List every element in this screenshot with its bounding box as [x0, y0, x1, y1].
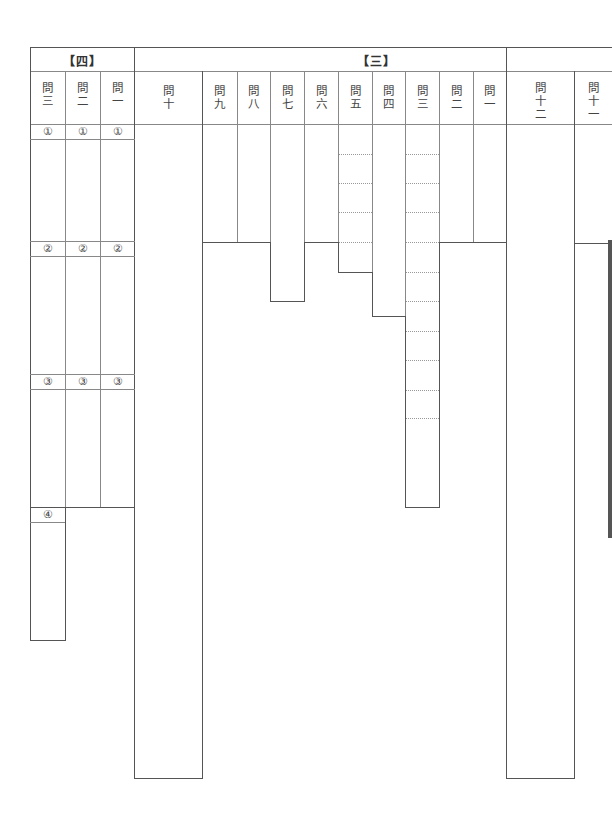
sec3-q2q1-bottom — [439, 242, 507, 243]
sec2-q11-label: 問 十 一 — [574, 82, 612, 121]
sec4-q3-sub3: ③ — [30, 375, 65, 388]
sec3-q4-label: 問四 — [372, 85, 405, 111]
sec4-q1-sub3: ③ — [100, 375, 135, 388]
sec4-q2-label: 問 二 — [65, 82, 100, 108]
sec2-q12-right — [574, 71, 575, 779]
sec3-q10-right — [202, 71, 203, 779]
sec3-q5-guide — [339, 154, 372, 155]
sec3-q2-label: 問二 — [439, 85, 473, 111]
sec4-sub2-bottom — [30, 256, 135, 257]
sec2-q12-bottom — [506, 778, 575, 779]
sec4-q3-bottom — [30, 640, 66, 641]
section-3-header: 【三】 — [134, 52, 506, 69]
sec4-sub3-bottom — [30, 389, 135, 390]
sec3-q3-guide — [406, 301, 439, 302]
sec3-q4-left-lower — [372, 272, 373, 316]
sec4-q3-sub4: ④ — [30, 508, 65, 521]
sec4-q2-sub2: ② — [65, 242, 100, 255]
sec3-q5-guide — [339, 212, 372, 213]
sec3-q3-guide — [406, 331, 439, 332]
sec4-q3-right-border — [65, 507, 66, 640]
sec4-q2-sub1: ① — [65, 125, 100, 138]
sec3-q3-guide — [406, 183, 439, 184]
sec4-q3-label: 問 三 — [30, 82, 65, 108]
sec4-sub1-bottom — [30, 139, 135, 140]
sec3-q5-guide — [339, 183, 372, 184]
sec3-q9q8-bottom — [202, 242, 271, 243]
sec3-q3-guide — [406, 390, 439, 391]
sec3-q3-guide — [406, 360, 439, 361]
page-edge-shadow — [608, 240, 612, 538]
sec3-q7-right-lower — [304, 242, 305, 301]
sec3-q5-label: 問五 — [338, 85, 372, 111]
sec3-q9-label: 問九 — [202, 85, 237, 111]
sec4-q1-sub2: ② — [100, 242, 135, 255]
sec3-q10-label: 問十 — [134, 85, 202, 111]
sec3-q3-right-lower — [439, 242, 440, 507]
sec3-q3-guide — [406, 418, 439, 419]
sec2-q12-label: 問 十 二 — [506, 82, 574, 121]
top-border — [30, 47, 612, 48]
sec4-q2-sub3: ③ — [65, 375, 100, 388]
sec3-q7-left-lower — [270, 242, 271, 301]
sec3-q4-bottom — [372, 316, 406, 317]
sec3-q1-label: 問一 — [473, 85, 506, 111]
sec3-q3-guide — [406, 272, 439, 273]
section-divider-3-2 — [506, 47, 507, 779]
sec3-q7-label: 問七 — [270, 85, 304, 111]
sec4-q3-sub2: ② — [30, 242, 65, 255]
sec3-q3-guide — [406, 212, 439, 213]
sec3-q5-guide — [339, 242, 372, 243]
section-divider-4-3 — [134, 47, 135, 779]
header-divider — [30, 71, 612, 72]
sec3-q3-guide — [406, 242, 439, 243]
sec2-q11-top-boundary — [574, 243, 612, 244]
sec3-q6-label: 問六 — [304, 85, 338, 111]
sec3-q3-left-lower — [405, 316, 406, 507]
section-4-header: 【四】 — [30, 52, 134, 69]
sec3-q3-label: 問三 — [405, 85, 439, 111]
sec3-q5-left-lower — [338, 242, 339, 272]
sec3-q5-bottom — [338, 272, 373, 273]
sec3-q3-bottom — [405, 507, 440, 508]
sec3-q3-guide — [406, 154, 439, 155]
sec3-q10-bottom — [134, 778, 203, 779]
sec4-sub4-bottom — [30, 522, 65, 523]
sec4-q3-sub1: ① — [30, 125, 65, 138]
sec4-q1-label: 問 一 — [100, 82, 135, 108]
sec3-q7-bottom — [270, 301, 305, 302]
sec3-q8-label: 問八 — [237, 85, 270, 111]
sec4-q1-sub1: ① — [100, 125, 135, 138]
sec3-q6-bottom — [304, 242, 339, 243]
